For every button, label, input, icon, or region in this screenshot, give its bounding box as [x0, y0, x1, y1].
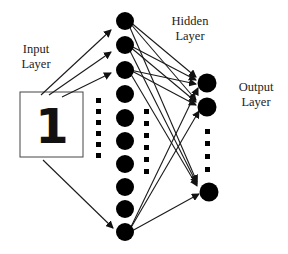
- neural-network-diagram: Input Layer Hidden Layer Output Layer 1: [0, 0, 288, 254]
- input-digit: 1: [35, 98, 68, 154]
- svg-text:Input: Input: [23, 42, 50, 56]
- svg-text:Hidden: Hidden: [172, 14, 210, 28]
- hidden-node: [116, 223, 134, 241]
- hidden-node: [116, 132, 134, 150]
- output-layer-nodes: [198, 74, 219, 202]
- input-layer-label: Input Layer: [21, 42, 51, 71]
- output-node: [198, 74, 217, 93]
- output-node: [200, 183, 219, 202]
- hidden-layer-nodes: [116, 12, 134, 241]
- hidden-node: [116, 85, 134, 103]
- output-ellipsis-dots: [205, 129, 210, 172]
- hidden-node: [116, 109, 134, 127]
- output-node: [198, 98, 217, 117]
- input-image-box: 1: [20, 92, 83, 157]
- hidden-ellipsis-dots: [144, 109, 149, 174]
- hidden-node: [116, 36, 134, 54]
- svg-text:Output: Output: [239, 80, 274, 94]
- input-ellipsis-dots: [96, 98, 101, 158]
- hidden-node: [116, 200, 134, 218]
- hidden-node: [116, 12, 134, 30]
- output-layer-label: Output Layer: [239, 80, 274, 109]
- svg-text:Layer: Layer: [241, 95, 271, 109]
- svg-text:Layer: Layer: [175, 29, 205, 43]
- hidden-node: [116, 61, 134, 79]
- hidden-output-edges: [128, 21, 199, 232]
- hidden-node: [116, 178, 134, 196]
- svg-text:Layer: Layer: [21, 57, 51, 71]
- hidden-layer-label: Hidden Layer: [172, 14, 210, 43]
- hidden-node: [116, 155, 134, 173]
